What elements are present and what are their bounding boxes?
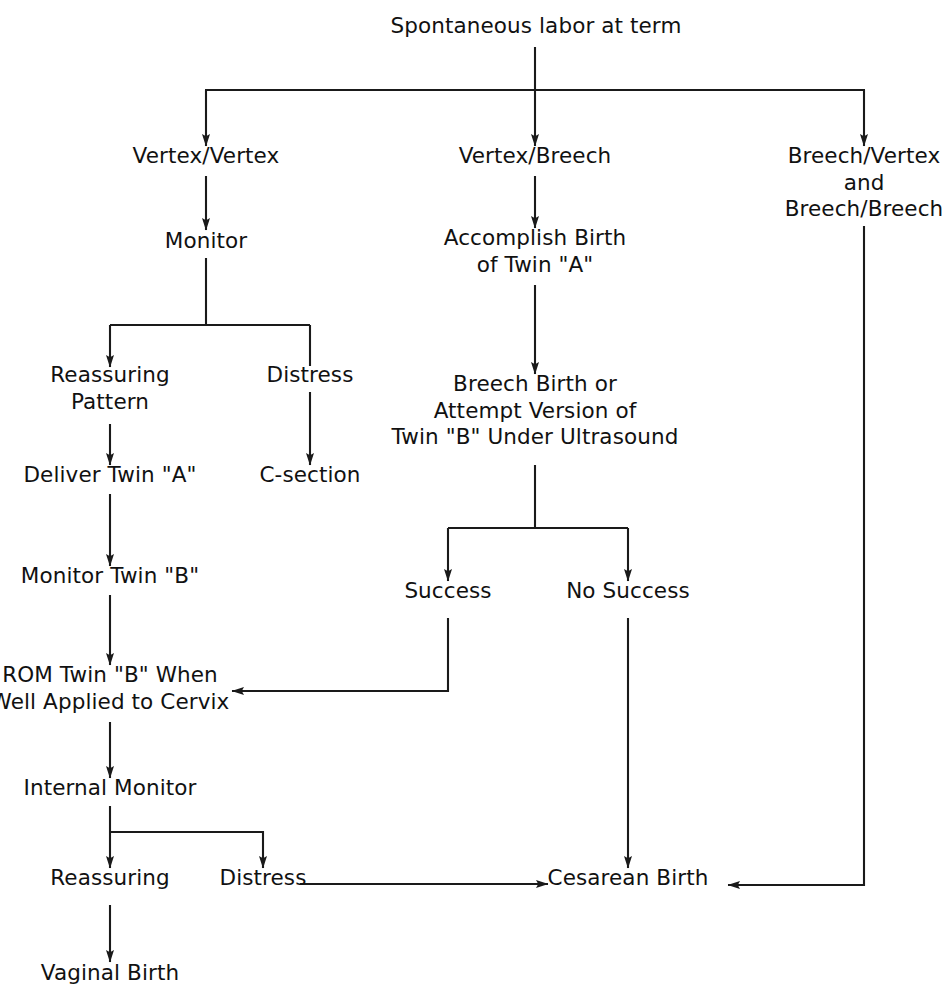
- node-breech-birth-or-attempt-version: Breech Birth or Attempt Version of Twin …: [355, 371, 715, 451]
- node-reassuring-pattern: Reassuring Pattern: [0, 362, 230, 415]
- edge-success-to-romtwinb: [232, 618, 448, 691]
- node-vertex-breech: Vertex/Breech: [395, 143, 675, 170]
- node-accomplish-birth-of-twin-a: Accomplish Birth of Twin "A": [395, 225, 675, 278]
- node-success: Success: [358, 578, 538, 605]
- flowchart-canvas: Spontaneous labor at term Vertex/Vertex …: [0, 0, 946, 1007]
- node-monitor: Monitor: [86, 228, 326, 255]
- node-internal-monitor: Internal Monitor: [0, 775, 240, 802]
- edge-breechbranch-to-cesarean: [728, 226, 864, 885]
- node-cesarean-birth: Cesarean Birth: [528, 865, 728, 892]
- node-vertex-vertex: Vertex/Vertex: [66, 143, 346, 170]
- node-no-success: No Success: [528, 578, 728, 605]
- node-distress-lower: Distress: [178, 865, 348, 892]
- node-vaginal-birth: Vaginal Birth: [0, 960, 220, 987]
- node-spontaneous-labor-at-term: Spontaneous labor at term: [336, 13, 736, 40]
- node-monitor-twin-b: Monitor Twin "B": [0, 563, 240, 590]
- edge-internalmonitor-to-distress-lower: [110, 832, 263, 868]
- node-rom-twin-b-when-well-applied-to-cervix: ROM Twin "B" When Well Applied to Cervix: [0, 662, 230, 715]
- node-c-section: C-section: [200, 462, 420, 489]
- node-breech-vertex-and-breech-breech: Breech/Vertex and Breech/Breech: [764, 143, 946, 223]
